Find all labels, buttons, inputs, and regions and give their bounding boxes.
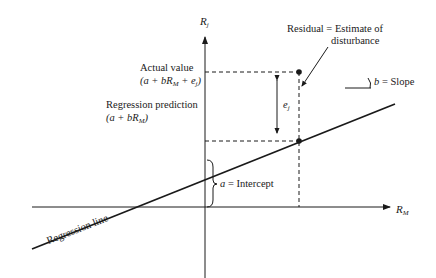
residual-label-line1: Residual = Estimate of (287, 23, 383, 35)
actual-value-point (296, 69, 302, 75)
prediction-point (296, 138, 302, 144)
residual-pointer-arrow (302, 47, 328, 86)
intercept-brace (207, 160, 217, 207)
prediction-formula: (a + bRM) (106, 112, 148, 127)
prediction-title: Regression prediction (106, 99, 198, 111)
actual-value-formula: (a + bRM + ej) (140, 75, 201, 90)
residual-symbol: ej (283, 99, 290, 114)
slope-angle-arc (368, 78, 371, 88)
actual-value-title: Actual value (140, 62, 193, 74)
intercept-label: a = Intercept (220, 178, 274, 190)
y-axis-label: Rj (200, 15, 209, 31)
slope-label: b = Slope (374, 76, 414, 88)
x-axis-label: RM (396, 203, 409, 219)
residual-label-line2: disturbance (331, 35, 379, 47)
